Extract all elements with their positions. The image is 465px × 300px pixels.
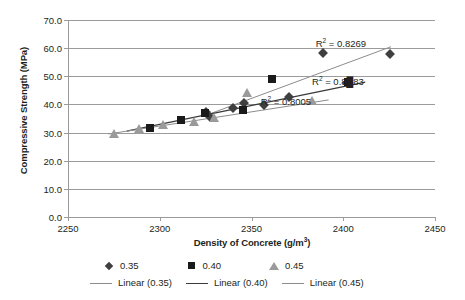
- x-axis-label: 2250: [57, 223, 78, 234]
- y-axis-label: 50.0: [44, 71, 63, 82]
- legend-label: Linear (0.35): [118, 277, 172, 288]
- trendlines: [68, 20, 435, 217]
- data-point-040: [177, 116, 185, 124]
- data-point-045: [158, 120, 168, 129]
- data-point-045: [242, 88, 252, 97]
- x-axis-tick: [435, 217, 436, 221]
- plot-area: 0.010.020.030.040.050.060.070.0 22502300…: [68, 20, 435, 217]
- x-axis-tick: [252, 217, 253, 221]
- data-point-040: [268, 75, 276, 83]
- legend-label: Linear (0.40): [214, 277, 268, 288]
- data-point-045: [109, 129, 119, 138]
- r2-annotation-040: R2 = 0.8█83: [312, 75, 364, 87]
- y-axis-label: 30.0: [44, 127, 63, 138]
- data-point-040: [239, 106, 247, 114]
- data-point-040: [146, 124, 154, 132]
- legend-item-linear-035[interactable]: Linear (0.35): [90, 277, 172, 288]
- legend-item-040[interactable]: 0.40: [187, 260, 222, 271]
- legend-item-linear-040[interactable]: Linear (0.40): [186, 277, 268, 288]
- y-axis-title: Compressive Strength (MPa): [18, 21, 29, 201]
- r2-annotation-045: R2 = 0.8005: [261, 95, 311, 107]
- x-axis-label: 2300: [149, 223, 170, 234]
- data-point-045: [209, 113, 219, 122]
- trendline-swatch-icon: [186, 278, 208, 288]
- y-axis-label: 10.0: [44, 183, 63, 194]
- y-axis-label: 40.0: [44, 99, 63, 110]
- x-axis-title-base: Density of Concrete (g/m: [194, 237, 304, 248]
- y-axis-label: 70.0: [44, 15, 63, 26]
- legend-label: 0.35: [120, 260, 139, 271]
- x-axis-tick: [68, 217, 69, 221]
- x-axis-tick: [160, 217, 161, 221]
- x-axis-title-tail: ): [307, 237, 310, 248]
- trendline-swatch-icon: [282, 278, 304, 288]
- legend-label: Linear (0.45): [310, 277, 364, 288]
- x-axis-tick: [343, 217, 344, 221]
- data-point-045: [189, 117, 199, 126]
- x-axis-label: 2350: [241, 223, 262, 234]
- legend-row-lines: Linear (0.35)Linear (0.40)Linear (0.45): [68, 274, 435, 291]
- chart-legend: 0.350.400.45 Linear (0.35)Linear (0.40)L…: [68, 257, 435, 291]
- legend-item-045[interactable]: 0.45: [269, 260, 304, 271]
- chart-container: Compressive Strength (MPa) 0.010.020.030…: [0, 0, 465, 300]
- r2-annotation-035: R2 = 0.8269: [316, 37, 366, 49]
- y-axis-label: 0.0: [49, 212, 62, 223]
- legend-item-035[interactable]: 0.35: [104, 260, 139, 271]
- trendline-swatch-icon: [90, 278, 112, 288]
- legend-label: 0.40: [203, 260, 222, 271]
- legend-item-linear-045[interactable]: Linear (0.45): [282, 277, 364, 288]
- diamond-marker-icon: [104, 261, 114, 271]
- y-axis-label: 20.0: [44, 155, 63, 166]
- data-point-045: [134, 125, 144, 134]
- data-point-040: [201, 109, 209, 117]
- square-marker-icon: [187, 261, 197, 271]
- x-axis-label: 2450: [424, 223, 445, 234]
- x-axis-label: 2400: [333, 223, 354, 234]
- triangle-marker-icon: [269, 261, 279, 271]
- x-axis-title: Density of Concrete (g/m3): [68, 236, 436, 248]
- legend-row-markers: 0.350.400.45: [68, 257, 435, 274]
- legend-label: 0.45: [285, 260, 304, 271]
- y-axis-label: 60.0: [44, 43, 63, 54]
